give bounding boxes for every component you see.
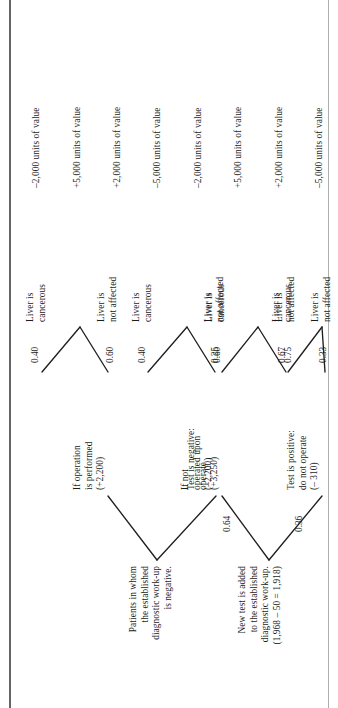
prob-test-positive: 0.36 (294, 516, 304, 532)
state-not-operate-cancerous: Liver is cancerous (131, 222, 154, 322)
branch-label-test-positive: Test is positive: do not operate (– 310) (286, 370, 321, 490)
prob-not-operate-cancerous: 0.40 (137, 347, 147, 363)
value-operate-not-affected: +5,000 units of value (72, 8, 84, 188)
state-testpos-cancerous: Liver is cancerous (271, 222, 294, 322)
edge-testpos-cancerous (288, 327, 322, 372)
prob-test-negative: 0.64 (222, 516, 232, 532)
state-testpos-not-affected: Liver is not affected (310, 222, 333, 322)
edge-root1-not-operate (157, 496, 216, 560)
edge-root1-operate (108, 496, 157, 560)
edge-testneg-cancerous (222, 327, 258, 372)
prob-testpos-cancerous: 0.67 (277, 347, 287, 363)
value-testpos-not-affected: –5,000 units of value (314, 8, 326, 188)
prob-operate-cancerous: 0.40 (30, 347, 40, 363)
root-node-tree-2: New test is added to the established dia… (237, 566, 283, 702)
value-testpos-cancerous: +2,000 units of value (274, 8, 286, 188)
value-not-operate-cancerous: +2,000 units of value (112, 8, 124, 188)
edge-notoperate-cancerous (148, 327, 187, 372)
figure-canvas: Patients in whom the established diagnos… (0, 0, 338, 708)
prob-testneg-cancerous: 0.25 (210, 347, 220, 363)
value-not-operate-not-affected: –5,000 units of value (152, 8, 164, 188)
edge-operate-cancerous (42, 327, 80, 372)
state-operate-cancerous: Liver is cancerous (25, 222, 48, 322)
branch-label-operate: If operation is performed (+2,200) (72, 372, 107, 490)
prob-testpos-not-affected: 0.33 (318, 347, 328, 363)
edge-operate-not-affected (80, 327, 108, 372)
branch-label-test-negative: Test is negative: operate (+3,250) (186, 370, 221, 490)
root-node-tree-1: Patients in whom the established diagnos… (128, 566, 174, 698)
value-operate-cancerous: –2,000 units of value (31, 8, 43, 188)
state-testneg-cancerous: Liver is cancerous (204, 222, 227, 322)
prob-operate-not-affected: 0.60 (105, 347, 115, 363)
state-operate-not-affected: Liver is not affected (96, 222, 119, 322)
value-testneg-not-affected: +5,000 units of value (233, 8, 245, 188)
value-testneg-cancerous: –2,000 units of value (193, 8, 205, 188)
